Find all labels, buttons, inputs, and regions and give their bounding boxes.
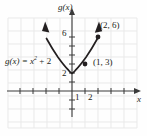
x-axis — [7, 88, 141, 94]
equation-lhs: g(x) = — [5, 56, 30, 66]
point-label-2-6: (2, 6) — [100, 21, 120, 30]
coordinate-plane — [0, 0, 147, 136]
x-tick-label-1: 1 — [75, 93, 80, 102]
y-intercept-label-2: 2 — [62, 69, 67, 78]
point-marker-2-6 — [96, 35, 101, 40]
graph-figure: g(x) 6 2 1 2 x (2, 6) (1, 3) g(x) = x2 +… — [0, 0, 147, 136]
x-tick-label-2: 2 — [88, 93, 93, 102]
point-marker-1-3 — [83, 62, 88, 67]
equation-label: g(x) = x2 + 2 — [5, 55, 51, 66]
equation-tail: + 2 — [37, 56, 51, 66]
x-axis-label: x — [137, 95, 141, 104]
y-tick-label-6: 6 — [62, 29, 67, 38]
point-label-1-3: (1, 3) — [93, 58, 113, 67]
y-axis-function-label: g(x) — [58, 3, 73, 12]
